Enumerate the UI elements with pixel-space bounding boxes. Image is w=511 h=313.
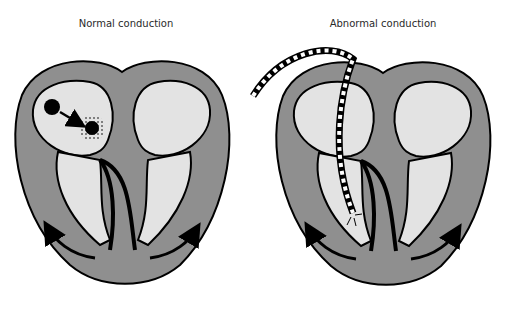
heart-normal [15, 61, 229, 284]
conduction-diagram [0, 0, 511, 313]
heart-abnormal [253, 51, 490, 285]
sa-node [44, 99, 60, 115]
av-node [85, 121, 99, 135]
